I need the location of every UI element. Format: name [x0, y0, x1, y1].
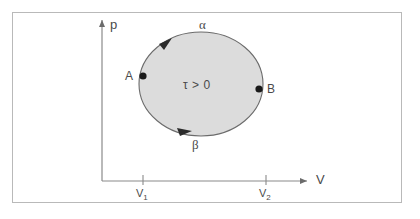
tick-label-v2-sub: 2 [266, 193, 270, 202]
upper-branch-label: α [199, 18, 206, 31]
work-area-label: τ > 0 [183, 79, 211, 91]
pv-diagram-graphic [0, 0, 420, 219]
pressure-axis-label: p [110, 18, 117, 31]
state-point-a-label: A [125, 70, 133, 82]
figure-canvas: p V α β τ > 0 A B V1 V2 [0, 0, 420, 219]
state-point-b [255, 85, 262, 92]
lower-branch-label: β [192, 138, 199, 151]
tick-label-v1-sub: 1 [143, 193, 147, 202]
state-point-a [139, 72, 146, 79]
tick-label-v2: V2 [259, 188, 271, 202]
volume-axis-label: V [316, 173, 325, 186]
state-point-b-label: B [267, 83, 275, 95]
tick-label-v1: V1 [136, 188, 148, 202]
